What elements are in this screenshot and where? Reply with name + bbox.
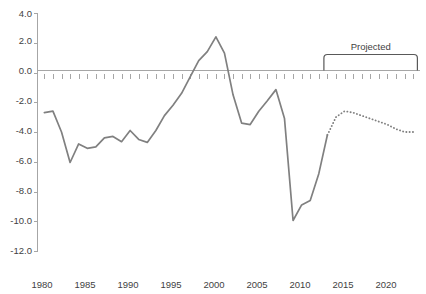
y-axis-tick-marks bbox=[34, 14, 38, 252]
projected-label: Projected bbox=[351, 41, 391, 52]
x-tick-label: 1990 bbox=[117, 279, 138, 290]
y-tick-label: -8.0 bbox=[16, 185, 32, 196]
line-chart: 4.0 2.0 0.0 -2.0 -4.0 -6.0 -8.0 -10.0 -1… bbox=[0, 0, 426, 294]
projected-annotation: Projected bbox=[324, 41, 418, 71]
x-tick-label: 2020 bbox=[375, 279, 396, 290]
y-tick-label: -4.0 bbox=[16, 125, 32, 136]
y-tick-label: 2.0 bbox=[19, 35, 32, 46]
y-tick-label: 4.0 bbox=[19, 8, 32, 19]
x-axis-tick-labels: 1980 1985 1990 1995 2000 2005 2010 2015 … bbox=[31, 279, 396, 290]
y-tick-label: -10.0 bbox=[10, 215, 32, 226]
y-tick-label: -2.0 bbox=[16, 95, 32, 106]
x-tick-label: 1980 bbox=[31, 279, 52, 290]
x-tick-label: 1985 bbox=[74, 279, 95, 290]
chart-container: 4.0 2.0 0.0 -2.0 -4.0 -6.0 -8.0 -10.0 -1… bbox=[0, 0, 426, 294]
x-tick-label: 2010 bbox=[289, 279, 310, 290]
y-tick-label: -6.0 bbox=[16, 155, 32, 166]
y-tick-label: 0.0 bbox=[19, 65, 32, 76]
y-axis-tick-labels: 4.0 2.0 0.0 -2.0 -4.0 -6.0 -8.0 -10.0 -1… bbox=[10, 8, 32, 256]
projected-bracket bbox=[324, 55, 418, 71]
y-tick-label: -12.0 bbox=[10, 245, 32, 256]
series-line-projected bbox=[327, 111, 413, 135]
x-tick-label: 1995 bbox=[160, 279, 181, 290]
x-tick-label: 2000 bbox=[203, 279, 224, 290]
x-tick-label: 2005 bbox=[246, 279, 267, 290]
series-line-actual bbox=[44, 37, 327, 221]
x-tick-label: 2015 bbox=[332, 279, 353, 290]
